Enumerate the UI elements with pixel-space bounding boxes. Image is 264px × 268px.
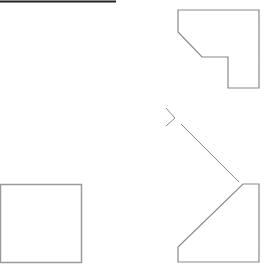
notched-square-top-right [178, 10, 259, 88]
diagram-canvas [0, 0, 264, 268]
chevron-right-icon [166, 108, 175, 126]
beveled-square-bottom-right [178, 184, 259, 262]
diagonal-connector-line [181, 124, 239, 182]
square-bottom-left [1, 185, 82, 263]
